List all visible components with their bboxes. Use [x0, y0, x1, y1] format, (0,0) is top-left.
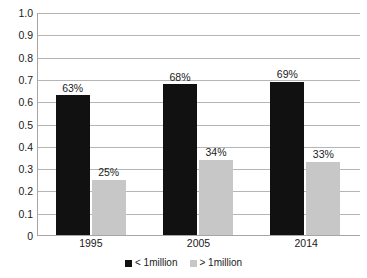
- bar-value-label: 68%: [169, 72, 190, 83]
- bar-value-label: 33%: [313, 149, 334, 160]
- legend-label: < 1million: [135, 258, 178, 268]
- bar-group: 69%33%: [253, 13, 360, 235]
- y-tick-label: 0.8: [18, 52, 33, 63]
- legend-item[interactable]: > 1million: [190, 258, 243, 268]
- x-tick-label: 1995: [37, 238, 145, 252]
- bar[interactable]: 25%: [92, 180, 126, 236]
- bar-groups: 63%25%68%34%69%33%: [38, 13, 360, 235]
- bar-value-label: 25%: [98, 167, 119, 178]
- legend-swatch-icon: [125, 260, 132, 267]
- bar-value-label: 34%: [205, 147, 226, 158]
- legend-label: > 1million: [200, 258, 243, 268]
- plot-wrapper: 1.00.90.80.70.60.50.40.30.20.10 63%25%68…: [0, 0, 367, 250]
- y-tick-label: 0.4: [18, 142, 33, 153]
- bar-group: 68%34%: [145, 13, 252, 235]
- y-tick-label: 0.7: [18, 75, 33, 86]
- plot-area: 63%25%68%34%69%33%: [37, 13, 360, 236]
- y-tick-label: 1.0: [18, 8, 33, 19]
- y-tick-label: 0: [27, 231, 33, 242]
- y-tick-label: 0.1: [18, 208, 33, 219]
- y-tick-label: 0.2: [18, 186, 33, 197]
- bar[interactable]: 68%: [163, 84, 197, 235]
- bar[interactable]: 34%: [199, 160, 233, 235]
- bar[interactable]: 33%: [306, 162, 340, 235]
- y-tick-label: 0.3: [18, 164, 33, 175]
- bar-value-label: 63%: [62, 83, 83, 94]
- bar[interactable]: 69%: [270, 82, 304, 235]
- y-tick-label: 0.9: [18, 30, 33, 41]
- legend-item[interactable]: < 1million: [125, 258, 178, 268]
- bar-group: 63%25%: [38, 13, 145, 235]
- y-tick-label: 0.6: [18, 97, 33, 108]
- y-tick-label: 0.5: [18, 119, 33, 130]
- bar-chart: 1.00.90.80.70.60.50.40.30.20.10 63%25%68…: [0, 0, 367, 278]
- y-axis: 1.00.90.80.70.60.50.40.30.20.10: [0, 0, 33, 250]
- bar-value-label: 69%: [277, 69, 298, 80]
- chart-legend: < 1million> 1million: [0, 258, 367, 268]
- x-axis: 199520052014: [37, 238, 360, 252]
- x-tick-label: 2014: [252, 238, 360, 252]
- legend-swatch-icon: [190, 260, 197, 267]
- bar[interactable]: 63%: [56, 95, 90, 235]
- x-tick-label: 2005: [145, 238, 253, 252]
